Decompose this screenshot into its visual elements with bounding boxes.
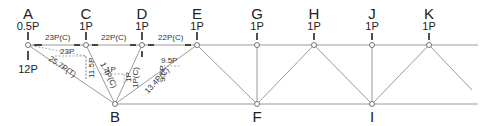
truss-diagram: A C D E G H J K B F I 0.5P 1P 1P 1P 1P 1… [0,0,483,126]
load-D: 1P [135,20,148,32]
load-A: 0.5P [17,20,40,32]
label-I: I [370,108,374,125]
load-E: 1P [190,20,203,32]
force-AB: 25.7P(T) [47,54,78,79]
component-EB-v: 9.5P [158,66,167,82]
joint-K[interactable] [427,43,432,48]
component-CB-v: 1P [124,72,133,82]
component-AB-h: 23P [60,47,74,56]
load-H: 1P [307,20,320,32]
joint-I[interactable] [370,102,375,107]
member-K-right [429,45,472,90]
member-HF [257,45,314,104]
joint-D[interactable] [140,43,145,48]
component-CB-h: 1P [106,65,116,74]
label-B: B [110,108,120,125]
joint-B[interactable] [113,102,118,107]
component-AB-v: 11.5P [87,58,96,78]
joint-E[interactable] [195,43,200,48]
joint-J[interactable] [370,43,375,48]
joint-F[interactable] [255,102,260,107]
joint-G[interactable] [255,43,260,48]
label-F: F [252,108,261,125]
reaction-A: 12P [18,63,38,75]
joint-C[interactable] [84,43,89,48]
force-CD: 22P(C) [101,33,127,42]
load-C: 1P [79,20,92,32]
load-G: 1P [250,20,263,32]
force-AC: 23P(C) [45,33,71,42]
member-EF [197,45,257,104]
member-KI [372,45,429,104]
load-K: 1P [422,20,435,32]
load-J: 1P [365,20,378,32]
joint-H[interactable] [312,43,317,48]
component-EB-h: 9.5P [161,56,177,65]
member-HI [314,45,372,104]
force-DE: 22P(C) [158,33,184,42]
joint-A[interactable] [26,43,31,48]
